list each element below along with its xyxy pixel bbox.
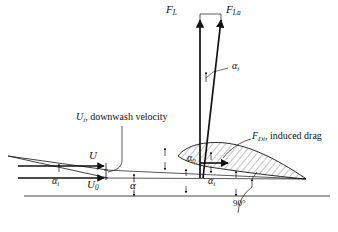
label-velocity-u-base: U [89, 149, 97, 161]
label-lift-force-apparent: FLa [226, 4, 241, 17]
label-alpha-zero: α0 [187, 153, 196, 165]
alpha-i-top-leader [206, 68, 228, 82]
label-right-angle: 90° [233, 199, 246, 208]
label-alpha-i-mid-sub: i [213, 180, 215, 187]
aerodynamics-figure: FL FLa αi FDi, induced drag Ui, downwash… [0, 0, 338, 232]
label-induced-drag: FDi, induced drag [252, 131, 322, 143]
label-alpha-i-left-sub: i [57, 180, 59, 187]
label-alpha: α [130, 180, 136, 191]
label-lift-force-apparent-base: F [226, 3, 233, 15]
label-lift-force: FL [166, 4, 177, 17]
label-lift-force-base: F [166, 3, 173, 15]
label-alpha-zero-sub: 0 [192, 157, 195, 164]
diagram-canvas [0, 0, 338, 232]
label-velocity-u0-sub: 0 [95, 183, 99, 192]
label-alpha-base: α [130, 179, 136, 191]
label-alpha-induced-top: αi [232, 61, 239, 73]
label-velocity-u0-base: U [87, 178, 95, 190]
label-downwash-text: , downwash velocity [85, 111, 168, 122]
label-velocity-u0: U0 [87, 179, 99, 192]
airfoil-section [178, 143, 306, 179]
label-induced-drag-sub: Di [258, 135, 265, 142]
label-velocity-u: U [89, 150, 97, 161]
label-alpha-i-left: αi [52, 176, 59, 188]
downwash-leader-line [108, 126, 122, 172]
label-lift-force-sub: L [173, 8, 177, 17]
label-alpha-i-mid: αi [208, 176, 215, 188]
label-induced-drag-text: , induced drag [265, 130, 322, 141]
label-lift-force-apparent-sub: La [233, 8, 241, 17]
label-alpha-induced-top-sub: i [237, 65, 239, 72]
label-downwash-velocity: Ui, downwash velocity [76, 112, 168, 124]
force-vector-connector [200, 14, 221, 20]
